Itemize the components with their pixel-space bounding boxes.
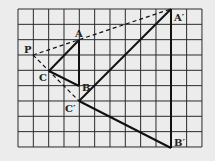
label-b: B (82, 83, 90, 93)
homothety-diagram: P A B C A′ B′ C′ (0, 0, 215, 161)
label-a: A (75, 29, 83, 39)
label-b-prime: B′ (174, 138, 185, 148)
label-a-prime: A′ (174, 13, 184, 23)
label-c: C (39, 73, 47, 83)
label-p: P (24, 45, 32, 55)
label-c-prime: C′ (65, 104, 76, 114)
